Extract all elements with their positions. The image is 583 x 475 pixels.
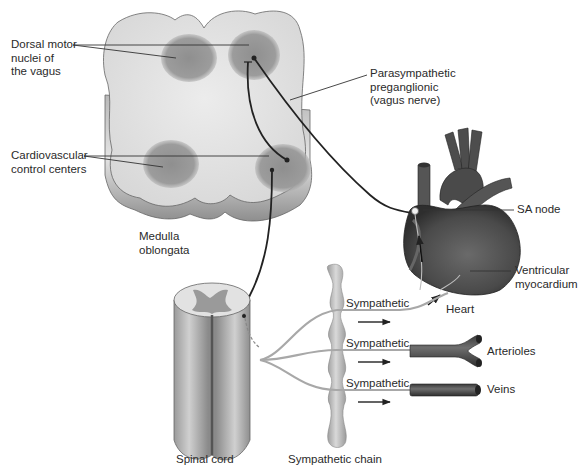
label-parasympathetic-preganglionic: Parasympathetic preganglionic (vagus ner…: [370, 67, 456, 108]
label-spinal-cord: Spinal cord: [176, 453, 234, 467]
label-medulla-oblongata: Medulla oblongata: [139, 230, 190, 257]
label-arterioles: Arterioles: [487, 345, 536, 359]
label-ventricular-myocardium: Ventricular myocardium: [515, 264, 578, 291]
label-sympathetic-arterioles: Sympathetic: [346, 337, 409, 351]
label-sympathetic-veins: Sympathetic: [346, 377, 409, 391]
label-veins: Veins: [487, 383, 515, 397]
dorsal-motor-nucleus-left: [161, 34, 217, 82]
cardiovascular-center-right: [255, 144, 311, 192]
dorsal-motor-nucleus-right: [228, 30, 280, 80]
veins: [410, 384, 481, 396]
spinal-cord: [174, 283, 260, 460]
heart: [404, 128, 521, 305]
sa-node: [412, 208, 419, 215]
label-sa-node: SA node: [517, 203, 560, 217]
label-heart: Heart: [446, 303, 474, 317]
label-sympathetic-chain: Sympathetic chain: [288, 453, 382, 467]
label-sympathetic-heart: Sympathetic: [346, 297, 409, 311]
sympathetic-chain: [327, 264, 346, 447]
cardiovascular-control-diagram: [0, 0, 583, 475]
label-dorsal-motor-nuclei: Dorsal motor nuclei of the vagus: [11, 38, 77, 79]
medulla-oblongata: [103, 11, 311, 221]
cardiovascular-center-left: [143, 140, 199, 188]
label-cardiovascular-control-centers: Cardiovascular control centers: [11, 149, 88, 176]
arterioles: [410, 335, 482, 367]
